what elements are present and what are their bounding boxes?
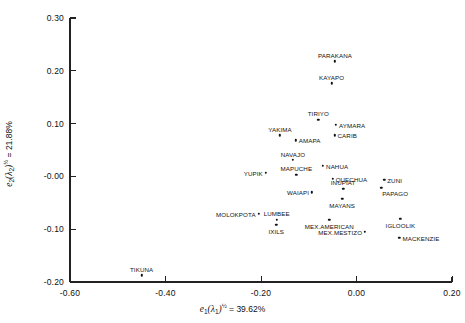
data-point-label: CARIB	[338, 132, 357, 139]
plot-axes-and-points	[0, 0, 465, 323]
data-point-label: IXILS	[268, 228, 284, 235]
data-point-label: MEX.MESTIZO	[318, 228, 362, 235]
data-point-label: KAYAPO	[319, 73, 344, 80]
data-point-label: ZUNI	[387, 176, 402, 183]
x-axis-title: e1(λ1)½ = 39.62%	[0, 303, 465, 315]
data-point-label: MAYANS	[329, 202, 355, 209]
data-point-label: MOLOKPOTA	[216, 210, 256, 217]
data-point-label: TIRIYO	[308, 110, 329, 117]
y-axis-title: e2(λ2)½ = 21.88%	[3, 89, 15, 219]
data-point-label: AYMARA	[339, 121, 365, 128]
y-tick-label: 0.30	[28, 13, 64, 23]
y-tick-label: 0.20	[28, 66, 64, 76]
y-tick-label: -0.10	[28, 224, 64, 234]
data-point-label: NAHUA	[326, 162, 348, 169]
y-tick-label: 0.10	[28, 119, 64, 129]
data-point-label: TIKUNA	[130, 265, 153, 272]
x-tick-label: -0.60	[48, 288, 92, 298]
y-tick-label: -0.20	[28, 277, 64, 287]
x-tick-label: -0.20	[239, 288, 283, 298]
scatter-plot-figure: e2(λ2)½ = 21.88% e1(λ1)½ = 39.62% 0.300.…	[0, 0, 465, 323]
data-point-label: LUMBEE	[264, 210, 290, 217]
data-point-label: PAPAGO	[382, 190, 408, 197]
data-point-label: INUPIAT	[331, 179, 356, 186]
data-point-label: YAKIMA	[268, 125, 292, 132]
data-point-label: YUPIK	[244, 169, 263, 176]
data-point-label: PARAKANA	[318, 51, 352, 58]
data-point-label: WAIAPI	[287, 189, 309, 196]
y-tick-label: -0.00	[28, 171, 64, 181]
data-point-label: MAPUCHE	[281, 165, 313, 172]
data-point-label: MACKENZIE	[402, 234, 439, 241]
data-point-label: AMAPA	[299, 137, 321, 144]
data-point-label: IGLOOLIK	[386, 222, 416, 229]
data-point-label: NAVAJO	[281, 150, 305, 157]
x-tick-label: 0.20	[430, 288, 465, 298]
x-tick-label: -0.40	[144, 288, 188, 298]
x-tick-label: 0.00	[335, 288, 379, 298]
